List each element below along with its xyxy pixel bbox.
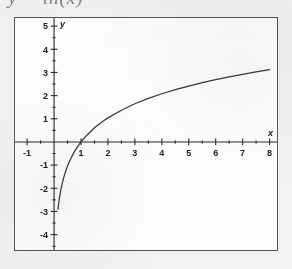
x-tick-label: -1	[23, 148, 31, 158]
y-tick-label: -3	[40, 207, 48, 217]
y-tick-label: 3	[43, 68, 48, 78]
x-axis-label: x	[267, 128, 274, 138]
formula-strip: y = ln(x)	[0, 0, 292, 14]
plot-frame: -11234567854321-1-2-3-4yx	[14, 17, 278, 251]
y-tick-label: 5	[43, 21, 48, 31]
y-tick-label: -2	[40, 184, 48, 194]
x-tick-label: 2	[105, 148, 110, 158]
formula-text: y = ln(x)	[8, 0, 84, 9]
x-tick-label: 5	[186, 148, 191, 158]
x-tick-label: 1	[78, 148, 83, 158]
y-tick-label: -4	[40, 230, 48, 240]
x-tick-label: 6	[213, 148, 218, 158]
function-curve	[58, 70, 270, 209]
x-tick-label: 8	[267, 148, 272, 158]
y-tick-label: -1	[40, 160, 48, 170]
x-tick-label: 4	[159, 148, 164, 158]
plot-canvas: -11234567854321-1-2-3-4yx	[15, 18, 278, 251]
x-tick-label: 7	[240, 148, 245, 158]
y-axis-label: y	[59, 19, 66, 29]
x-tick-label: 3	[132, 148, 137, 158]
y-tick-label: 2	[43, 91, 48, 101]
y-tick-label: 4	[43, 45, 48, 55]
y-tick-label: 1	[43, 114, 48, 124]
